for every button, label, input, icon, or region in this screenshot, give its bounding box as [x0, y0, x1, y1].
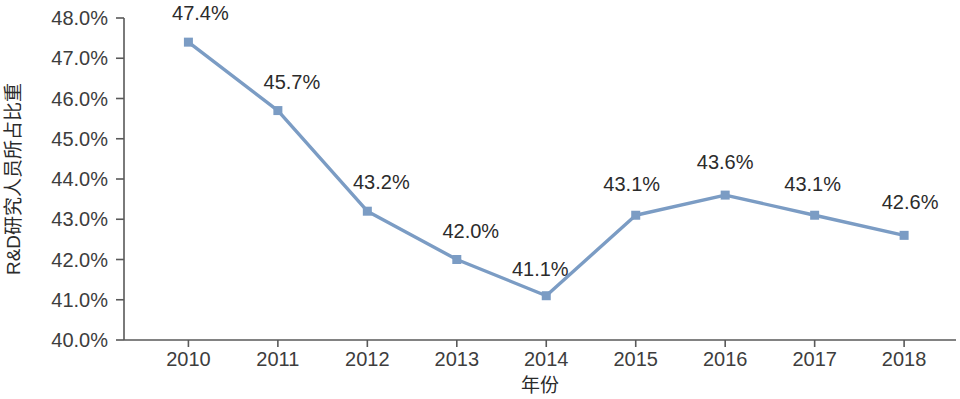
y-tick-label: 48.0%: [51, 7, 108, 29]
chart-canvas: 48.0%47.0%46.0%45.0%44.0%43.0%42.0%41.0%…: [0, 0, 960, 399]
x-axis-title: 年份: [521, 375, 559, 396]
x-tick-label: 2014: [524, 348, 569, 370]
data-point-label: 47.4%: [172, 2, 229, 24]
y-tick-label: 44.0%: [51, 168, 108, 190]
data-point-label: 42.0%: [442, 220, 499, 242]
data-point-label: 41.1%: [512, 258, 569, 280]
data-point-label: 43.1%: [603, 173, 660, 195]
data-point-marker: [900, 231, 909, 240]
x-tick-label: 2015: [613, 348, 658, 370]
line-chart: 48.0%47.0%46.0%45.0%44.0%43.0%42.0%41.0%…: [0, 0, 960, 399]
data-point-label: 45.7%: [264, 71, 321, 93]
x-tick-label: 2016: [703, 348, 748, 370]
x-tick-label: 2012: [345, 348, 390, 370]
data-point-label: 43.1%: [784, 173, 841, 195]
data-point-marker: [631, 211, 640, 220]
x-tick-label: 2013: [435, 348, 480, 370]
data-point-marker: [721, 191, 730, 200]
data-point-marker: [184, 38, 193, 47]
data-point-label: 42.6%: [882, 191, 939, 213]
y-tick-label: 45.0%: [51, 128, 108, 150]
data-point-marker: [363, 207, 372, 216]
y-tick-label: 47.0%: [51, 47, 108, 69]
x-tick-label: 2011: [256, 348, 299, 370]
data-point-marker: [542, 291, 551, 300]
data-point-marker: [273, 106, 282, 115]
x-axis-tick-labels: 201020112012201320142015201620172018: [166, 348, 926, 370]
x-tick-label: 2017: [792, 348, 837, 370]
x-axis-tick-marks: [188, 340, 904, 347]
data-point-label: 43.2%: [353, 171, 410, 193]
y-axis-title: R&D研究人员所占比重: [3, 83, 24, 275]
x-tick-label: 2010: [166, 348, 211, 370]
y-tick-label: 46.0%: [51, 88, 108, 110]
y-axis-tick-labels: 48.0%47.0%46.0%45.0%44.0%43.0%42.0%41.0%…: [51, 7, 108, 351]
y-tick-label: 43.0%: [51, 208, 108, 230]
data-point-marker: [452, 255, 461, 264]
data-point-marker: [810, 211, 819, 220]
y-axis-tick-marks: [116, 18, 124, 340]
data-point-label: 43.6%: [697, 151, 754, 173]
y-tick-label: 42.0%: [51, 249, 108, 271]
x-tick-label: 2018: [882, 348, 927, 370]
y-tick-label: 40.0%: [51, 329, 108, 351]
data-point-labels: 47.4%45.7%43.2%42.0%41.1%43.1%43.6%43.1%…: [172, 2, 939, 280]
y-tick-label: 41.0%: [51, 289, 108, 311]
